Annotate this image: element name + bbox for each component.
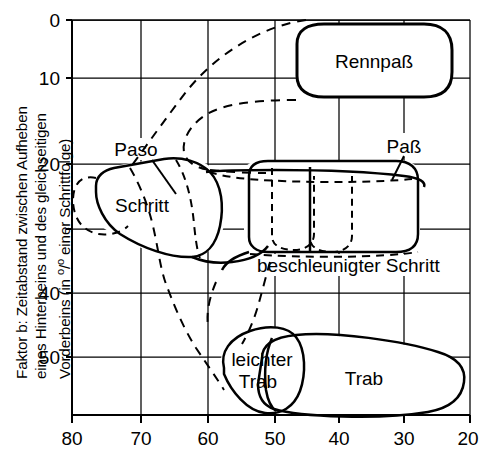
region-schritt-dashed-inner [176,160,200,258]
region-label-leichter-trab-line1: leichter [231,349,293,370]
xtick-label-70: 70 [130,428,151,449]
dashed-envelope-hook [207,282,216,326]
xtick-label-50: 50 [264,428,285,449]
xtick-label-20: 20 [457,428,478,449]
chart-figure: Faktor b: Zeitabstand zwischen Aufheben … [0,0,480,453]
plot-area: 0 10 20 40 50 80 70 60 50 40 30 20 Rennp… [0,0,480,453]
region-label-trab: Trab [345,368,383,389]
region-label-schritt: Schritt [115,195,170,216]
ytick-label-20: 20 [39,154,60,175]
region-pass-cluster [206,161,424,270]
leader-line-paso [152,160,176,194]
region-label-leichter-trab-line2: Trab [239,371,277,392]
xtick-label-40: 40 [328,428,349,449]
region-schritt [73,158,268,263]
ytick-label-0: 0 [49,10,60,31]
region-label-rennpass: Rennpaß [335,51,413,72]
ytick-label-40: 40 [39,283,60,304]
xtick-label-80: 80 [61,428,82,449]
dashed-envelope-pass-lobe [184,100,296,170]
region-label-beschleunigter-schritt: beschleunigter Schritt [257,255,440,276]
xtick-label-30: 30 [393,428,414,449]
xtick-label-60: 60 [197,428,218,449]
region-label-paso: Paso [114,139,157,160]
ytick-label-10: 10 [39,68,60,89]
region-pass-dashed-cell-2 [310,170,352,252]
region-label-pass: Paß [387,136,422,157]
ytick-label-50: 50 [39,347,60,368]
